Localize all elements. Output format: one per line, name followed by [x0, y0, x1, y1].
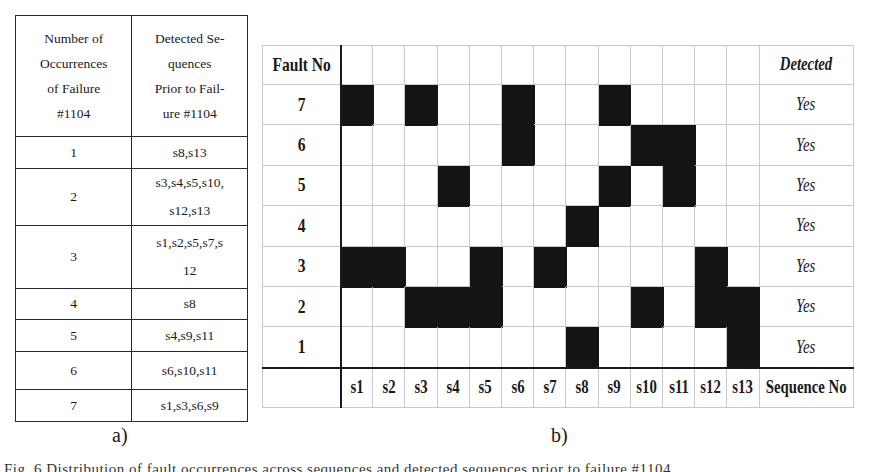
detected-value: Yes [760, 287, 854, 327]
active-cell [341, 85, 374, 126]
header-cell [663, 45, 695, 85]
empty-cell [695, 206, 727, 246]
table-row: 4s8 [16, 289, 248, 320]
sequence-label: s3 [405, 368, 437, 408]
header-line: #1104 [20, 101, 127, 126]
sequence-label: s8 [566, 368, 598, 408]
occurrence-count: 4 [16, 289, 132, 320]
header-occurrences: Number ofOccurrencesof Failure#1104 [16, 16, 132, 137]
detected-sequences: s1,s2,s5,s7,s12 [132, 226, 248, 289]
empty-cell [695, 327, 727, 367]
sequence-line: s12,s13 [136, 197, 243, 225]
figure-caption-text: Fig. 6 Distribution of fault occurrences… [0, 462, 869, 472]
figure-caption: Fig. 6 Distribution of fault occurrences… [0, 462, 869, 472]
empty-cell [599, 125, 631, 165]
fault-no-header: Fault No [262, 45, 341, 85]
empty-cell [470, 85, 502, 125]
detected-value-text: Yes [797, 256, 816, 277]
empty-cell [631, 166, 663, 206]
header-cell [373, 45, 405, 85]
occurrence-count: 3 [16, 226, 132, 289]
header-cell [695, 45, 727, 85]
empty-cell [405, 327, 437, 367]
empty-cell [502, 247, 534, 287]
fault-number: 3 [298, 255, 306, 277]
empty-cell [566, 166, 598, 206]
empty-cell [534, 287, 566, 327]
empty-cell [695, 85, 727, 125]
empty-cell [341, 166, 373, 206]
header-line: ure #1104 [136, 101, 243, 126]
sequence-label: s5 [470, 368, 502, 408]
active-cell [502, 85, 535, 126]
empty-cell [373, 125, 405, 165]
sequence-line: s8 [136, 294, 243, 314]
empty-cell [341, 125, 373, 165]
header-cell [438, 45, 470, 85]
occurrence-count: 5 [16, 320, 132, 352]
active-cell [727, 327, 760, 368]
sequence-line: s1,s2,s5,s7,s [136, 229, 243, 257]
sequence-label: s2 [373, 368, 405, 408]
occurrence-table: Number ofOccurrencesof Failure#1104Detec… [15, 15, 248, 422]
header-cell [566, 45, 598, 85]
empty-cell [438, 125, 470, 165]
header-cell [631, 45, 663, 85]
footer-empty-cell [262, 368, 341, 408]
header-cell [727, 45, 759, 85]
sequence-label-text: s2 [382, 377, 395, 398]
empty-cell [631, 327, 663, 367]
empty-cell [663, 247, 695, 287]
empty-cell [405, 125, 437, 165]
empty-cell [341, 287, 373, 327]
detected-value-text: Yes [797, 135, 816, 156]
table-header-row: Number ofOccurrencesof Failure#1104Detec… [16, 16, 248, 137]
empty-cell [438, 206, 470, 246]
sequence-line: s4,s9,s11 [136, 326, 243, 346]
active-cell [534, 247, 567, 288]
active-cell [695, 247, 728, 288]
detected-header-text: Detected [780, 54, 832, 75]
empty-cell [566, 125, 598, 165]
active-cell [566, 327, 599, 368]
header-cell [405, 45, 437, 85]
fault-number: 5 [298, 174, 306, 196]
empty-cell [373, 206, 405, 246]
active-cell [438, 287, 471, 328]
sequence-label: s11 [663, 368, 695, 408]
empty-cell [341, 206, 373, 246]
sequence-label-text: s5 [479, 377, 492, 398]
empty-cell [599, 327, 631, 367]
detected-value: Yes [760, 166, 854, 206]
sequence-line: s3,s4,s5,s10, [136, 169, 243, 197]
sequence-line: s6,s10,s11 [136, 361, 243, 381]
fault-number: 2 [298, 296, 306, 318]
empty-cell [341, 327, 373, 367]
empty-cell [502, 206, 534, 246]
occurrence-count: 1 [16, 137, 132, 169]
sequence-label: s6 [502, 368, 534, 408]
sequence-label-text: s12 [701, 377, 722, 398]
detected-value: Yes [760, 125, 854, 165]
empty-cell [373, 327, 405, 367]
empty-cell [470, 125, 502, 165]
empty-cell [405, 206, 437, 246]
detected-value: Yes [760, 85, 854, 125]
table-row: 7s1,s3,s6,s9 [16, 390, 248, 422]
sequence-line: s8,s13 [136, 143, 243, 163]
empty-cell [727, 206, 759, 246]
empty-cell [373, 85, 405, 125]
fault-row-label: 3 [262, 247, 341, 287]
header-line: Number of [20, 26, 127, 51]
sequence-label: s1 [341, 368, 373, 408]
sequence-label-text: s10 [636, 377, 657, 398]
table-row: 5s4,s9,s11 [16, 320, 248, 352]
detected-value-text: Yes [797, 215, 816, 236]
active-cell [470, 287, 503, 328]
vertical-axis-line [340, 45, 342, 408]
active-cell [405, 287, 438, 328]
header-line: Occurrences [20, 51, 127, 76]
empty-cell [470, 327, 502, 367]
fault-row-label: 2 [262, 287, 341, 327]
empty-cell [502, 166, 534, 206]
